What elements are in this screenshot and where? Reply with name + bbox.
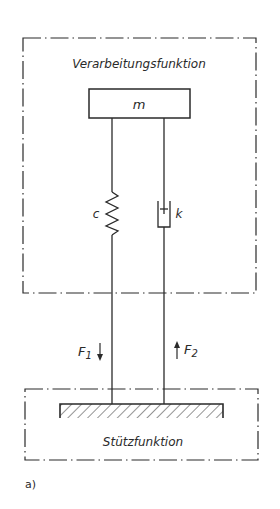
figure-label: a) xyxy=(25,478,36,491)
force-f1-arrow-icon xyxy=(97,343,103,361)
mass-spring-damper-diagram: Verarbeitungsfunktion m c k F1 F2 Stützf… xyxy=(0,0,280,509)
processing-function-label: Verarbeitungsfunktion xyxy=(72,57,206,71)
support-function-boundary xyxy=(25,389,258,460)
mass-label: m xyxy=(133,97,146,112)
damper xyxy=(158,118,170,404)
processing-function-boundary xyxy=(23,38,256,293)
force-f2-label: F2 xyxy=(184,342,198,359)
damper-label: k xyxy=(176,207,184,221)
hatched-ground xyxy=(60,404,223,418)
force-f2-arrow-icon xyxy=(174,341,180,359)
force-f1-label: F1 xyxy=(78,344,92,361)
spring-label: c xyxy=(93,207,100,221)
support-function-label: Stützfunktion xyxy=(103,435,183,449)
spring xyxy=(106,118,118,404)
